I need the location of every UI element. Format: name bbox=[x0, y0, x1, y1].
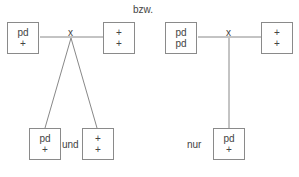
box-line: pd bbox=[39, 133, 50, 144]
box-line: + bbox=[274, 38, 280, 49]
box-line: pd bbox=[223, 133, 234, 144]
right-diagram-child-box: pd + bbox=[213, 128, 245, 160]
box-line: + bbox=[116, 27, 122, 38]
box-line: + bbox=[42, 144, 48, 155]
qualifier-label: nur bbox=[187, 139, 201, 150]
left-diagram-node-label: x bbox=[68, 27, 73, 38]
right-diagram-right-box: + + bbox=[261, 22, 293, 54]
left-diagram-child-box-2: + + bbox=[82, 128, 114, 160]
left-diagram-left-box: pd + bbox=[7, 22, 39, 54]
box-line: + bbox=[95, 133, 101, 144]
box-line: pd bbox=[175, 38, 186, 49]
right-diagram-node-label: x bbox=[226, 27, 231, 38]
box-line: pd bbox=[175, 27, 186, 38]
box-line: + bbox=[116, 38, 122, 49]
right-diagram-left-box: pd pd bbox=[165, 22, 197, 54]
separator-label: bzw. bbox=[133, 4, 153, 15]
left-diagram-child-box-1: pd + bbox=[29, 128, 61, 160]
box-line: + bbox=[226, 144, 232, 155]
conjunction-label: und bbox=[62, 139, 79, 150]
box-line: + bbox=[95, 144, 101, 155]
box-line: pd bbox=[17, 27, 28, 38]
box-line: + bbox=[274, 27, 280, 38]
box-line: + bbox=[20, 38, 26, 49]
left-diagram-right-box: + + bbox=[103, 22, 135, 54]
